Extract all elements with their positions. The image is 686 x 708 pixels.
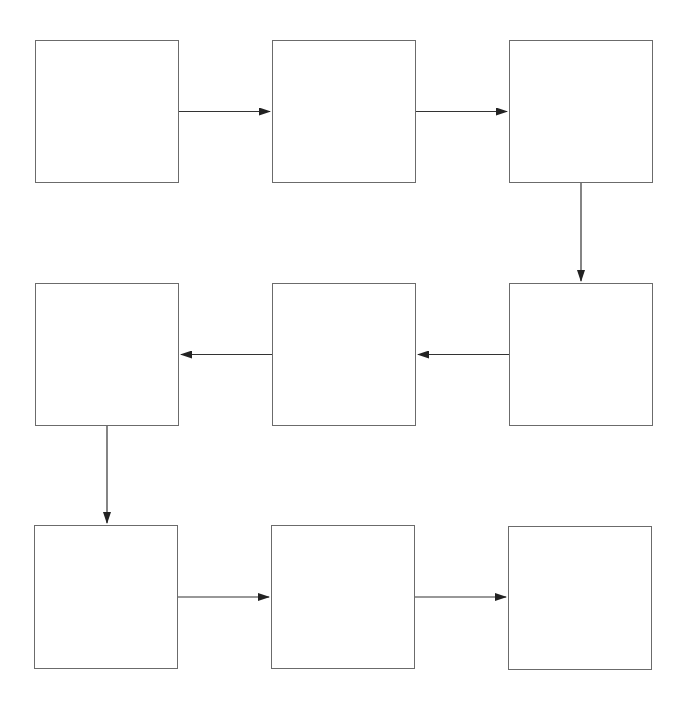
process-box-9 — [508, 526, 652, 670]
process-box-5 — [272, 283, 416, 426]
process-box-1 — [35, 40, 179, 183]
process-box-4 — [509, 283, 653, 426]
process-box-8 — [271, 525, 415, 669]
process-box-7 — [34, 525, 178, 669]
process-box-6 — [35, 283, 179, 426]
process-box-2 — [272, 40, 416, 183]
process-box-3 — [509, 40, 653, 183]
flow-diagram — [0, 0, 686, 708]
